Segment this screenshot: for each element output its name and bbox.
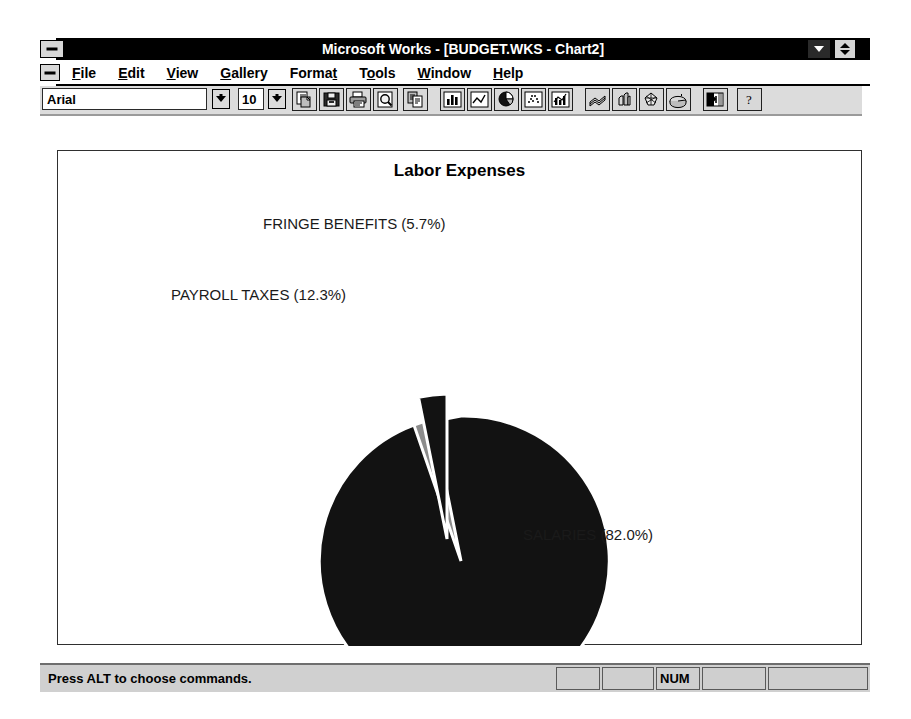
- scatter-chart-button[interactable]: [521, 88, 546, 111]
- font-name-value: Arial: [47, 91, 76, 108]
- status-message: Press ALT to choose commands.: [48, 670, 252, 687]
- copy-button[interactable]: [403, 88, 428, 111]
- toolbar: Arial 10: [40, 86, 862, 116]
- floppy-disk-icon: [321, 90, 342, 109]
- svg-text:?: ?: [746, 92, 752, 107]
- print-button[interactable]: [346, 88, 371, 111]
- status-cell-5: [768, 667, 868, 690]
- pie-chart-button[interactable]: [494, 88, 519, 111]
- status-bar: Press ALT to choose commands. NUM: [40, 663, 870, 692]
- system-menu-dash-icon: [45, 71, 56, 74]
- pie-label-fringe-benefits: FRINGE BENEFITS (5.7%): [263, 215, 446, 232]
- font-size-dropdown-button[interactable]: [268, 89, 286, 109]
- go-to-page-button[interactable]: [703, 88, 728, 111]
- restore-button[interactable]: [834, 39, 856, 59]
- font-name-input[interactable]: Arial: [42, 88, 207, 110]
- new-document-button[interactable]: [292, 88, 317, 111]
- menu-item-tools[interactable]: Tools: [359, 62, 395, 84]
- pie-chart: [58, 151, 863, 646]
- go-to-1-icon: [705, 90, 726, 109]
- save-button[interactable]: [319, 88, 344, 111]
- font-name-dropdown-button[interactable]: [212, 89, 230, 109]
- menu-item-window[interactable]: Window: [418, 62, 472, 84]
- restore-double-arrow-icon: [840, 43, 850, 55]
- caret-down-icon: [814, 46, 824, 52]
- font-size-input[interactable]: 10: [238, 88, 264, 110]
- menu-item-format[interactable]: Format: [290, 62, 337, 84]
- copy-pages-icon: [405, 90, 426, 109]
- menu-item-file[interactable]: File: [72, 62, 96, 84]
- new-document-icon: [294, 90, 315, 109]
- status-message-area: Press ALT to choose commands.: [42, 667, 552, 690]
- chart-canvas[interactable]: Labor Expenses FRINGE BENEFITS (5.7%) PA…: [57, 150, 862, 645]
- pie-chart-icon: [496, 90, 517, 109]
- menu-item-help[interactable]: Help: [493, 62, 523, 84]
- area-3d-chart-button[interactable]: [585, 88, 610, 111]
- combo-chart-button[interactable]: [548, 88, 573, 111]
- menu-item-view[interactable]: View: [167, 62, 199, 84]
- printer-icon: [348, 90, 369, 109]
- ribbon-3d-icon: [587, 90, 608, 109]
- works-application-window: Microsoft Works - [BUDGET.WKS - Chart2] …: [40, 38, 870, 698]
- window-title: Microsoft Works - [BUDGET.WKS - Chart2]: [56, 38, 870, 60]
- font-size-value: 10: [242, 91, 256, 108]
- system-menu-dash-icon: [47, 48, 58, 51]
- print-preview-button[interactable]: [373, 88, 398, 111]
- help-button[interactable]: ?: [737, 88, 762, 111]
- pie-chart-svg: [58, 151, 863, 646]
- line-chart-icon: [469, 90, 490, 109]
- question-mark-icon: ?: [739, 90, 760, 109]
- status-cell-4: [702, 667, 766, 690]
- bar-3d-chart-button[interactable]: [612, 88, 637, 111]
- status-cell-1: [556, 667, 600, 690]
- status-cell-2: [602, 667, 654, 690]
- document-system-menu-button[interactable]: [40, 64, 60, 81]
- scatter-chart-icon: [523, 90, 544, 109]
- pie-3d-icon: [668, 90, 689, 109]
- pie-label-salaries: SALARIES (82.0%): [523, 526, 653, 543]
- magnifier-page-icon: [375, 90, 396, 109]
- pie-label-payroll-taxes: PAYROLL TAXES (12.3%): [171, 286, 346, 303]
- title-bar: Microsoft Works - [BUDGET.WKS - Chart2]: [56, 38, 870, 60]
- radar-chart-button[interactable]: [639, 88, 664, 111]
- bar-chart-icon: [442, 90, 463, 109]
- bar-3d-icon: [614, 90, 635, 109]
- window-system-menu-button[interactable]: [40, 40, 64, 58]
- radar-chart-icon: [641, 90, 662, 109]
- bar-chart-button[interactable]: [440, 88, 465, 111]
- status-cell-num: NUM: [656, 667, 700, 690]
- combo-chart-icon: [550, 90, 571, 109]
- pie-3d-chart-button[interactable]: [666, 88, 691, 111]
- menu-bar: File Edit View Gallery Format Tools Wind…: [56, 62, 870, 86]
- line-chart-button[interactable]: [467, 88, 492, 111]
- minimize-button[interactable]: [808, 40, 830, 58]
- num-lock-indicator: NUM: [660, 670, 690, 687]
- menu-item-edit[interactable]: Edit: [118, 62, 144, 84]
- menu-item-gallery[interactable]: Gallery: [220, 62, 267, 84]
